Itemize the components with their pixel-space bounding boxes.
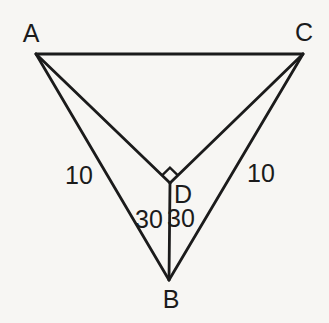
side-length-label-ab: 10	[65, 163, 93, 188]
segment-cb	[169, 54, 303, 280]
right-angle-marker	[162, 168, 178, 176]
segment-ab	[36, 54, 169, 280]
vertex-label-b: B	[163, 287, 180, 312]
angle-label-abd: 30	[135, 207, 163, 232]
geometry-figure-page: A C B D 10 10 30 30	[0, 0, 329, 323]
vertex-label-c: C	[295, 20, 313, 45]
vertex-label-a: A	[23, 21, 40, 46]
segment-ad	[36, 54, 170, 183]
angle-label-dbc: 30	[167, 206, 195, 231]
triangle-diagram	[0, 0, 329, 323]
side-length-label-cb: 10	[247, 161, 275, 186]
segment-db	[169, 183, 170, 280]
